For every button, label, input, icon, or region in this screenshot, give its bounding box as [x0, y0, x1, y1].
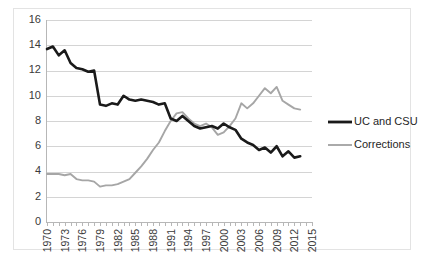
x-tick-label: 1997: [200, 229, 212, 253]
y-tick-label: 14: [29, 38, 41, 50]
y-tick-label: 16: [29, 13, 41, 25]
x-tick-label: 2009: [271, 229, 283, 253]
x-tick-label: 1991: [165, 229, 177, 253]
legend: UC and CSUCorrections: [328, 115, 418, 150]
x-tick-label: 2006: [253, 229, 265, 253]
x-tick-label: 1979: [94, 229, 106, 253]
chart-figure: 0246810121416 19701973197619791982198519…: [0, 0, 422, 266]
legend-label: UC and CSU: [354, 115, 418, 127]
x-tick-label: 1985: [129, 229, 141, 253]
x-axis-tick-labels: 1970197319761979198219851988199119941997…: [41, 229, 318, 253]
x-tick-label: 1973: [59, 229, 71, 253]
legend-item-uc-and-csu: UC and CSU: [328, 115, 418, 127]
series-corrections: [47, 87, 300, 187]
x-tick-label: 1970: [41, 229, 53, 253]
y-axis-tick-labels: 0246810121416: [29, 13, 41, 227]
legend-label: Corrections: [354, 138, 411, 150]
x-tick-label: 2003: [235, 229, 247, 253]
line-chart: 0246810121416 19701973197619791982198519…: [0, 0, 422, 266]
x-tick-label: 2000: [218, 229, 230, 253]
legend-item-corrections: Corrections: [328, 138, 411, 150]
gridlines: [47, 21, 312, 223]
y-tick-label: 4: [35, 164, 41, 176]
y-tick-label: 2: [35, 190, 41, 202]
y-tick-label: 0: [35, 215, 41, 227]
x-tick-label: 2012: [288, 229, 300, 253]
y-tick-label: 10: [29, 89, 41, 101]
x-tick-label: 2015: [306, 229, 318, 253]
y-tick-label: 8: [35, 114, 41, 126]
x-tick-label: 1988: [147, 229, 159, 253]
x-tick-label: 1994: [182, 229, 194, 253]
y-tick-label: 12: [29, 63, 41, 75]
series-uc-and-csu: [47, 47, 300, 158]
x-tick-label: 1976: [76, 229, 88, 253]
y-tick-label: 6: [35, 139, 41, 151]
x-tick-label: 1982: [112, 229, 124, 253]
